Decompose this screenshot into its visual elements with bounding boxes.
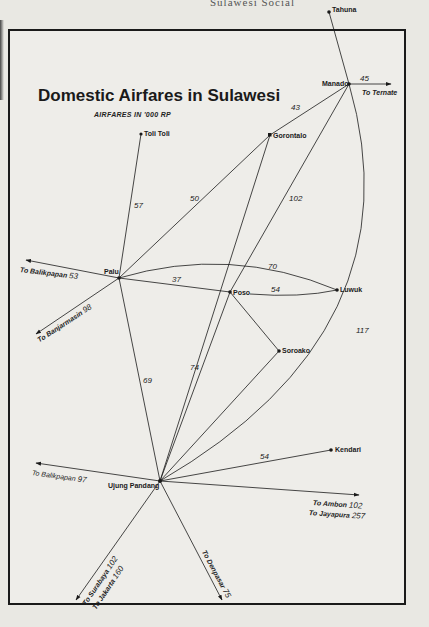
city-dot-luwuk (335, 288, 339, 292)
city-label-tahuna: Tahuna (332, 6, 356, 13)
dest-balikpapan2-fare: 97 (77, 474, 87, 484)
route-poso-luwuk (250, 290, 337, 295)
dest-ternate: To Ternate (362, 89, 397, 96)
diagram-title: Domestic Airfares in Sulawesi (38, 86, 280, 106)
route-poso-soroako (230, 292, 279, 351)
route-poso-ujungpandang (160, 292, 230, 481)
city-label-poso: Poso (233, 289, 250, 296)
dest-ambon-label: To Ambon (313, 499, 347, 508)
fare-palu-poso: 37 (172, 275, 181, 284)
city-dot-gorontalo (268, 133, 272, 137)
city-dot-palu (117, 276, 121, 280)
fare-ujungpandang-kendari: 54 (260, 452, 269, 461)
fare-poso-ujungpandang: 74 (190, 363, 199, 372)
route-ujungpandang-manado (160, 84, 364, 481)
city-label-gorontalo: Gorontalo (273, 132, 306, 139)
city-dot-tolitoli (139, 132, 142, 135)
route-soroako-ujungpandang (160, 351, 279, 481)
route-palu-ujungpandang (119, 278, 160, 481)
route-manado-gorontalo (270, 84, 349, 135)
dest-ternate-label: To Ternate (362, 89, 397, 96)
dest-ambon-fare: 102 (349, 501, 363, 511)
fare-poso-manado: 102 (289, 194, 302, 203)
route-palu-banjarmasin (36, 278, 119, 334)
route-poso-manado (230, 84, 349, 292)
route-ujungpandang-surabaya (76, 481, 160, 600)
city-label-tolitoli: Toli Toli (144, 130, 170, 137)
dest-balikpapan-fare: 53 (69, 271, 79, 281)
city-dot-soroako (277, 349, 281, 353)
city-label-manado: Manado (322, 80, 348, 87)
fare-poso-luwuk: 54 (271, 285, 280, 294)
city-dot-kendari (329, 448, 333, 452)
city-label-luwuk: Luwuk (340, 286, 362, 293)
fare-palu-gorontalo: 50 (190, 194, 199, 203)
fare-palu-ujungpandang: 69 (143, 376, 152, 385)
city-dot-poso (228, 290, 232, 294)
fare-palu-luwuk: 70 (268, 262, 277, 271)
city-label-kendari: Kendari (335, 446, 361, 453)
city-label-palu: Palu (104, 268, 119, 275)
dest-jayapura-label: To Jayapura (309, 509, 350, 519)
fare-palu-tolitoli: 57 (134, 201, 143, 210)
route-tahuna-manado (329, 12, 349, 84)
page-running-header: Sulawesi Social (210, 0, 295, 8)
fare-manado-gorontalo: 43 (291, 103, 300, 112)
city-dot-tahuna (327, 10, 331, 14)
city-label-ujungpandang: Ujung Pandang (108, 482, 159, 489)
diagram-subtitle: AIRFARES IN '000 RP (94, 111, 171, 118)
route-ujungpandang-ambon (160, 481, 359, 495)
dest-jayapura-fare: 257 (352, 511, 366, 521)
route-ujungpandang-denpasar (160, 481, 222, 600)
fare-ujungpandang-manado: 117 (356, 326, 369, 335)
fare-manado-ternate: 45 (360, 74, 369, 83)
city-label-soroako: Soroako (282, 347, 310, 354)
